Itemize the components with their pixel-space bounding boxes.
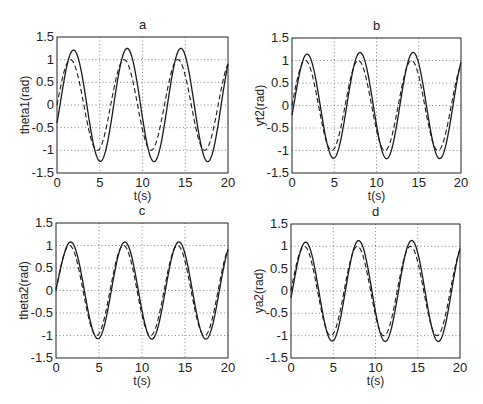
y-tick-label: -0.5 bbox=[31, 305, 53, 320]
y-tick-label: -1.5 bbox=[267, 165, 289, 180]
x-tick-label: 10 bbox=[135, 360, 149, 375]
x-tick-label: 15 bbox=[412, 175, 426, 190]
subplot-title: c bbox=[139, 203, 146, 218]
y-tick-label: 1 bbox=[281, 238, 288, 253]
y-tick-label: 0.5 bbox=[271, 75, 289, 90]
y-tick-label: 0 bbox=[282, 98, 289, 113]
y-tick-label: 0.5 bbox=[270, 261, 288, 276]
subplot-b: 05101520-1.5-1-0.500.511.5bt(s)yt2(rad) bbox=[253, 18, 468, 203]
subplot-c: 05101520-1.5-1-0.500.511.5ct(s)theta2(ra… bbox=[17, 203, 235, 388]
y-tick-label: 1 bbox=[47, 52, 54, 67]
x-tick-label: 0 bbox=[288, 175, 295, 190]
y-tick-label: -1 bbox=[276, 328, 288, 343]
x-axis-label: t(s) bbox=[133, 374, 150, 388]
y-tick-label: 0 bbox=[281, 283, 288, 298]
y-tick-label: 1.5 bbox=[36, 29, 54, 44]
y-tick-label: -1.5 bbox=[266, 350, 288, 365]
y-tick-label: 0.5 bbox=[36, 74, 54, 89]
y-tick-label: -1 bbox=[277, 143, 289, 158]
x-tick-label: 10 bbox=[369, 175, 383, 190]
y-tick-label: -1.5 bbox=[32, 165, 54, 180]
y-axis-label: theta2(rad) bbox=[17, 261, 31, 320]
y-axis-label: theta1(rad) bbox=[18, 76, 32, 135]
y-tick-label: -0.5 bbox=[32, 120, 54, 135]
x-tick-label: 5 bbox=[96, 175, 103, 190]
subplot-title: b bbox=[373, 18, 380, 33]
y-tick-label: -0.5 bbox=[266, 305, 288, 320]
x-tick-label: 20 bbox=[454, 175, 468, 190]
y-tick-label: 1.5 bbox=[35, 215, 53, 230]
x-tick-label: 5 bbox=[95, 360, 102, 375]
x-tick-label: 10 bbox=[368, 360, 382, 375]
x-tick-label: 5 bbox=[330, 360, 337, 375]
figure: 05101520-1.5-1-0.500.511.5at(s)theta1(ra… bbox=[0, 0, 483, 404]
y-tick-label: -0.5 bbox=[267, 120, 289, 135]
y-tick-label: -1 bbox=[42, 142, 54, 157]
y-tick-label: 1 bbox=[282, 53, 289, 68]
y-axis-label: ya2(rad) bbox=[252, 269, 266, 314]
y-tick-label: -1.5 bbox=[31, 350, 53, 365]
x-axis-label: t(s) bbox=[134, 189, 151, 203]
y-tick-label: 0.5 bbox=[35, 260, 53, 275]
subplot-title: d bbox=[372, 204, 379, 219]
reference-curve bbox=[57, 60, 228, 151]
x-tick-label: 15 bbox=[411, 360, 425, 375]
x-tick-label: 20 bbox=[221, 175, 235, 190]
y-tick-label: 1 bbox=[46, 238, 53, 253]
x-tick-label: 20 bbox=[221, 360, 235, 375]
x-tick-label: 15 bbox=[178, 175, 192, 190]
x-axis-label: t(s) bbox=[367, 374, 384, 388]
y-axis-label: yt2(rad) bbox=[253, 85, 267, 126]
x-tick-label: 0 bbox=[52, 360, 59, 375]
y-tick-label: 0 bbox=[47, 97, 54, 112]
x-tick-label: 15 bbox=[178, 360, 192, 375]
y-tick-label: 1.5 bbox=[270, 216, 288, 231]
x-tick-label: 0 bbox=[287, 360, 294, 375]
subplot-d: 05101520-1.5-1-0.500.511.5dt(s)ya2(rad) bbox=[252, 204, 467, 388]
y-tick-label: 1.5 bbox=[271, 30, 289, 45]
x-tick-label: 20 bbox=[453, 360, 467, 375]
x-tick-label: 10 bbox=[135, 175, 149, 190]
subplot-a: 05101520-1.5-1-0.500.511.5at(s)theta1(ra… bbox=[18, 17, 235, 203]
y-tick-label: 0 bbox=[46, 283, 53, 298]
y-tick-label: -1 bbox=[41, 328, 53, 343]
x-tick-label: 5 bbox=[331, 175, 338, 190]
subplot-title: a bbox=[139, 17, 147, 32]
x-tick-label: 0 bbox=[53, 175, 60, 190]
x-axis-label: t(s) bbox=[368, 189, 385, 203]
